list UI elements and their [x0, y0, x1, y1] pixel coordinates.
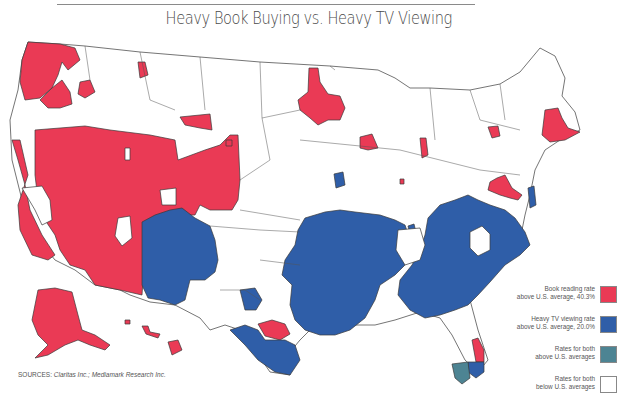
- region-tv-delaware: [528, 186, 536, 208]
- region-neither-co-hole: [160, 188, 176, 205]
- legend-swatch-neither: [600, 376, 617, 393]
- legend-swatch-tv: [600, 316, 617, 333]
- legend-item-book: Book reading rateabove U.S. average, 40.…: [520, 285, 617, 312]
- region-book-hawaii-1: [125, 320, 130, 324]
- region-book-in-spot: [400, 179, 404, 184]
- region-tv-ks-spot: [334, 172, 345, 188]
- region-both-sw-florida: [452, 362, 470, 384]
- region-book-alaska: [32, 288, 110, 358]
- legend-label: Heavy TV viewing rateabove U.S. average,…: [505, 315, 595, 331]
- map-title: Heavy Book Buying vs. Heavy TV Viewing: [43, 8, 574, 28]
- region-neither-slc-hole: [125, 148, 130, 160]
- region-book-hawaii-3: [168, 340, 182, 355]
- legend-swatch-book: [600, 286, 617, 303]
- legend-label: Book reading rateabove U.S. average, 40.…: [505, 285, 595, 301]
- legend-label: Rates for bothbelow U.S. averages: [505, 375, 595, 391]
- sources-text: Claritas Inc.; Mediamark Research Inc.: [54, 371, 166, 378]
- legend-swatch-both: [600, 346, 617, 363]
- region-tv-south-florida: [468, 362, 484, 378]
- region-book-hawaii-2: [142, 326, 160, 338]
- legend-item-both: Rates for bothabove U.S. averages: [520, 345, 617, 372]
- legend-label: Rates for bothabove U.S. averages: [505, 345, 595, 361]
- legend-item-neither: Rates for bothbelow U.S. averages: [520, 375, 617, 402]
- legend-item-tv: Heavy TV viewing rateabove U.S. average,…: [520, 315, 617, 342]
- sources-label: SOURCES:: [18, 371, 52, 378]
- region-book-co-spot: [226, 140, 232, 146]
- top-rule: [57, 4, 475, 5]
- sources-note: SOURCES: Claritas Inc.; Mediamark Resear…: [18, 371, 166, 378]
- legend: Book reading rateabove U.S. average, 40.…: [520, 285, 617, 405]
